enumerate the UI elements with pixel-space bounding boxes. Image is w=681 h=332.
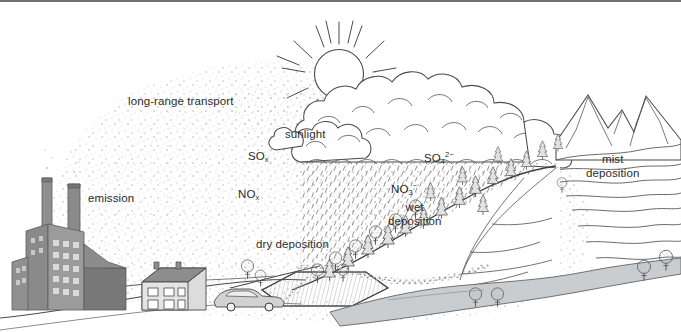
label-emission: emission	[88, 192, 134, 205]
diagram-canvas: long-range transport emission sunlight S…	[0, 0, 681, 332]
label-mist-deposition-line1: mist	[602, 153, 623, 165]
label-wet-deposition-line2: deposition	[388, 215, 441, 227]
label-sunlight: sunlight	[285, 128, 325, 141]
label-wet-deposition: wet deposition	[388, 201, 441, 228]
label-sox: SOx	[248, 150, 269, 164]
label-long-range-transport: long-range transport	[128, 95, 234, 108]
label-nox: NOx	[238, 188, 259, 202]
label-dry-deposition: dry deposition	[256, 238, 329, 251]
label-mist-deposition-line2: deposition	[586, 167, 639, 179]
label-wet-deposition-line1: wet	[406, 201, 424, 213]
label-mist-deposition: mist deposition	[586, 153, 639, 180]
acid-deposition-illustration	[0, 0, 681, 332]
label-nitrate: NO3−	[391, 183, 417, 197]
mountain-range	[556, 95, 681, 160]
label-sulphate: SO42−	[424, 152, 454, 166]
